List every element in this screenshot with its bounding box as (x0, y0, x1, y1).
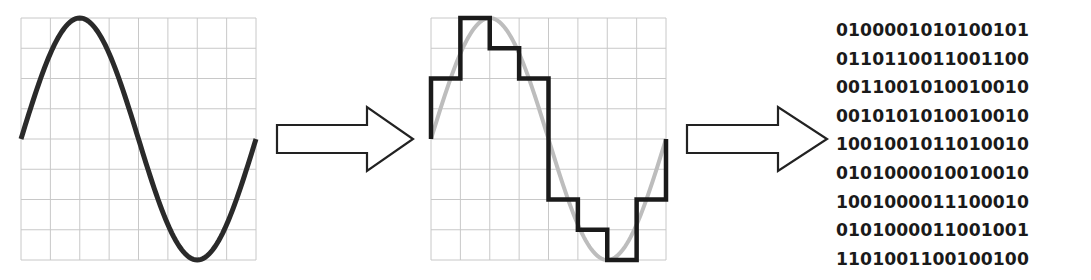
binary-row: 0101000011001001 (836, 216, 1086, 245)
binary-row: 0100001010100101 (836, 16, 1086, 45)
binary-row: 0010101010010010 (836, 102, 1086, 131)
binary-row: 1001001011010010 (836, 130, 1086, 159)
analog-sine-wave-graph (0, 0, 270, 280)
binary-data-block: 0100001010100101 0110110011001100 001100… (836, 16, 1086, 273)
binary-row: 1001000011100010 (836, 188, 1086, 217)
binary-row: 0101000010010010 (836, 159, 1086, 188)
binary-row: 1101001100100100 (836, 245, 1086, 274)
sampled-staircase-graph (410, 0, 680, 280)
arrow-right-icon (680, 100, 835, 180)
binary-row: 0110110011001100 (836, 45, 1086, 74)
binary-row: 0011001010010010 (836, 73, 1086, 102)
arrow-right-icon (270, 100, 420, 180)
